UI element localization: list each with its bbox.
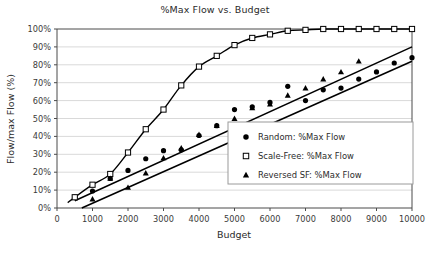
chart-container: %Max Flow vs. Budget 0%10%20%30%40%50%60… — [0, 0, 430, 255]
marker-circle — [303, 98, 308, 103]
x-tick-label: 7000 — [295, 214, 316, 224]
marker-triangle — [161, 155, 167, 160]
marker-square — [179, 83, 184, 88]
y-tick-label: 20% — [33, 167, 51, 177]
marker-triangle — [338, 69, 344, 74]
y-tick-label: 30% — [33, 149, 51, 159]
y-tick-label: 60% — [33, 96, 51, 106]
marker-circle — [125, 168, 130, 173]
x-tick-label: 0 — [54, 214, 59, 224]
chart-plot: 0%10%20%30%40%50%60%70%80%90%100% 010002… — [0, 0, 430, 255]
marker-circle — [232, 107, 237, 112]
marker-circle — [338, 85, 343, 90]
legend-item-label: Random: %Max Flow — [258, 132, 345, 142]
legend-item-label: Scale-Free: %Max Flow — [258, 151, 354, 161]
x-tick-label: 4000 — [189, 214, 210, 224]
marker-circle — [90, 188, 95, 193]
y-tick-label: 80% — [33, 60, 51, 70]
y-tick-label: 100% — [28, 24, 52, 34]
marker-triangle — [303, 85, 309, 90]
marker-square — [321, 26, 326, 31]
marker-circle — [356, 77, 361, 82]
x-axis-title: Budget — [217, 229, 251, 240]
marker-square — [214, 53, 219, 58]
y-axis-title: Flow/max Flow (%) — [5, 74, 16, 164]
y-tick-label: 70% — [33, 78, 51, 88]
marker-square — [409, 26, 414, 31]
marker-square — [285, 28, 290, 33]
y-axis: 0%10%20%30%40%50%60%70%80%90%100% — [28, 24, 57, 213]
marker-square — [374, 26, 379, 31]
marker-square — [303, 27, 308, 32]
marker-triangle — [356, 58, 362, 63]
y-tick-label: 90% — [33, 42, 51, 52]
y-tick-label: 50% — [33, 114, 51, 124]
marker-triangle — [90, 196, 96, 201]
marker-square — [196, 64, 201, 69]
marker-circle — [409, 55, 414, 60]
x-tick-label: 3000 — [153, 214, 174, 224]
marker-square — [143, 127, 148, 132]
marker-triangle — [285, 92, 291, 97]
marker-square — [356, 26, 361, 31]
x-tick-label: 1000 — [82, 214, 103, 224]
marker-circle — [285, 84, 290, 89]
marker-square — [232, 43, 237, 48]
marker-square — [125, 150, 130, 155]
marker-circle — [321, 87, 326, 92]
marker-square — [392, 26, 397, 31]
x-tick-label: 10000 — [399, 214, 425, 224]
marker-triangle — [178, 145, 184, 150]
marker-square — [72, 195, 77, 200]
y-tick-label: 40% — [33, 131, 51, 141]
x-tick-label: 2000 — [118, 214, 139, 224]
marker-square — [161, 107, 166, 112]
marker-square — [250, 35, 255, 40]
y-tick-label: 10% — [33, 185, 51, 195]
legend-item-label: Reversed SF: %Max Flow — [258, 170, 362, 180]
x-tick-label: 5000 — [224, 214, 245, 224]
marker-circle — [161, 148, 166, 153]
x-axis: 0100020003000400050006000700080009000100… — [54, 208, 425, 224]
marker-square — [338, 26, 343, 31]
marker-square — [267, 32, 272, 37]
marker-square — [90, 182, 95, 187]
marker-triangle — [320, 76, 326, 81]
marker-triangle — [143, 170, 149, 175]
x-tick-label: 8000 — [331, 214, 352, 224]
marker-circle — [392, 60, 397, 65]
marker-circle — [243, 134, 248, 139]
marker-square — [243, 153, 248, 158]
x-tick-label: 9000 — [366, 214, 387, 224]
chart-legend: Random: %Max FlowScale-Free: %Max FlowRe… — [228, 122, 413, 184]
marker-circle — [143, 156, 148, 161]
legend-items: Random: %Max FlowScale-Free: %Max FlowRe… — [243, 132, 362, 180]
marker-circle — [374, 69, 379, 74]
x-tick-label: 6000 — [260, 214, 281, 224]
y-tick-label: 0% — [38, 203, 51, 213]
